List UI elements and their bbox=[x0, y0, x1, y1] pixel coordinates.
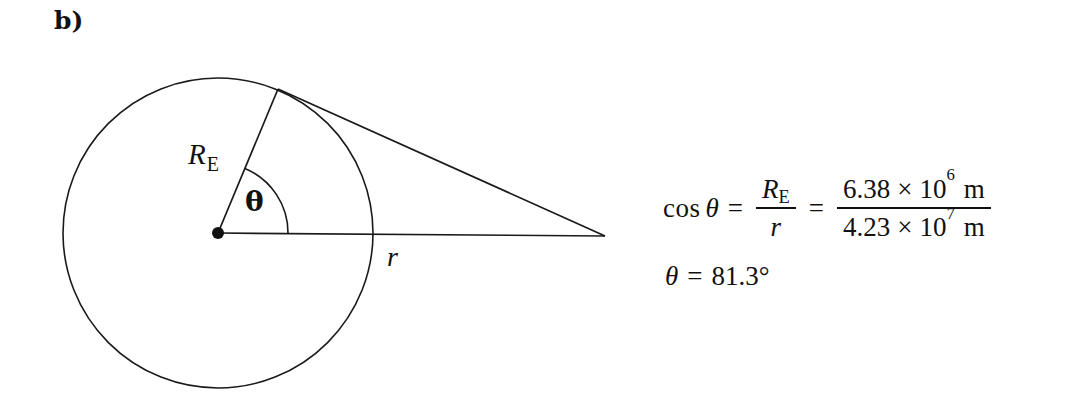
equation-block: cosθ = RE r = 6.38×106m 4.23×107m θ = 81… bbox=[663, 166, 995, 298]
fraction-re-over-r: RE r bbox=[756, 174, 796, 242]
denominator-times-sign: × bbox=[897, 212, 912, 242]
fraction-2-denominator: 4.23×107m bbox=[837, 212, 991, 242]
denominator-base: 10 bbox=[919, 212, 946, 242]
radius-label: RE bbox=[188, 140, 218, 169]
result-value: 81.3 bbox=[712, 261, 759, 292]
center-dot bbox=[212, 227, 224, 239]
denominator-unit: m bbox=[964, 212, 985, 242]
equals-sign-2: = bbox=[809, 193, 824, 224]
numerator-mantissa: 6.38 bbox=[843, 174, 890, 204]
numerator-unit: m bbox=[964, 174, 985, 204]
numerator-exponent: 6 bbox=[946, 165, 954, 184]
orbit-radius-label: r bbox=[387, 243, 398, 271]
fraction-2-bar bbox=[837, 207, 991, 209]
equation-line-1: cosθ = RE r = 6.38×106m 4.23×107m bbox=[663, 166, 995, 250]
denominator-exponent: 7 bbox=[946, 204, 954, 223]
figure-page: b) RE θ r cosθ = RE r = bbox=[0, 0, 1087, 394]
numerator-times-sign: × bbox=[897, 174, 912, 204]
fraction-1-bar bbox=[756, 207, 796, 209]
numerator-base: 10 bbox=[919, 174, 946, 204]
denominator-mantissa: 4.23 bbox=[843, 212, 890, 242]
fraction-1-numerator-subscript: E bbox=[779, 187, 790, 207]
tangent-line bbox=[278, 89, 605, 236]
fraction-1-denominator: r bbox=[765, 212, 788, 242]
fraction-1-numerator: RE bbox=[756, 174, 796, 204]
equation-line-2: θ = 81.3° bbox=[663, 254, 995, 298]
equals-sign-1: = bbox=[728, 193, 743, 224]
geometry-diagram bbox=[0, 0, 660, 394]
orbit-radius-line bbox=[218, 233, 605, 236]
cosine-function-name: cos bbox=[663, 193, 701, 224]
degree-symbol: ° bbox=[759, 261, 770, 292]
fraction-values: 6.38×106m 4.23×107m bbox=[837, 174, 991, 242]
fraction-1-numerator-symbol: R bbox=[762, 174, 779, 204]
radius-label-subscript: E bbox=[207, 153, 220, 175]
fraction-2-numerator: 6.38×106m bbox=[837, 174, 991, 204]
cosine-argument-theta: θ bbox=[706, 193, 719, 224]
result-equals-sign: = bbox=[687, 261, 702, 292]
result-theta-symbol: θ bbox=[665, 261, 678, 292]
angle-label: θ bbox=[245, 188, 264, 216]
radius-label-symbol: R bbox=[188, 138, 206, 170]
